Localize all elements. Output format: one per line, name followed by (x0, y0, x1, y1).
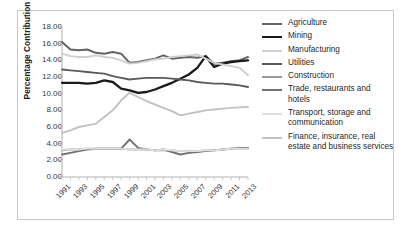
legend-item-label: Trade, restaurants and hotels (288, 84, 394, 105)
legend-color-swatch (262, 113, 282, 115)
legend-item[interactable]: Manufacturing (262, 45, 394, 55)
legend-color-swatch (262, 36, 282, 38)
legend-item-label: Agriculture (288, 18, 327, 28)
legend-item-label: Mining (288, 31, 312, 41)
legend-color-swatch (262, 137, 282, 139)
legend-color-swatch (262, 76, 282, 78)
legend-item[interactable]: Trade, restaurants and hotels (262, 84, 394, 105)
legend-item[interactable]: Agriculture (262, 18, 394, 28)
legend-item-label: Utilities (288, 58, 314, 68)
legend-item[interactable]: Finance, insurance, real estate and busi… (262, 132, 394, 153)
chart-legend: AgricultureMiningManufacturingUtilitiesC… (262, 18, 394, 155)
legend-item-label: Manufacturing (288, 45, 340, 55)
legend-color-swatch (262, 23, 282, 25)
legend-item[interactable]: Mining (262, 31, 394, 41)
legend-item-label: Construction (288, 71, 334, 81)
legend-color-swatch (262, 89, 282, 91)
legend-item[interactable]: Construction (262, 71, 394, 81)
legend-item-label: Transport, storage and communication (288, 108, 394, 129)
legend-color-swatch (262, 63, 282, 65)
legend-item[interactable]: Utilities (262, 58, 394, 68)
legend-color-swatch (262, 50, 282, 52)
chart-screenshot: Percentage Contribution 0.002.004.006.00… (0, 0, 411, 230)
legend-item[interactable]: Transport, storage and communication (262, 108, 394, 129)
legend-item-label: Finance, insurance, real estate and busi… (288, 132, 394, 153)
